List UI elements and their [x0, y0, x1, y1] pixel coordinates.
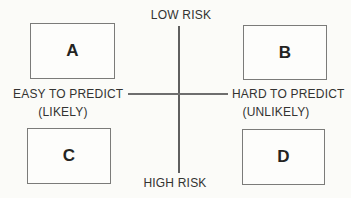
axis-label-low-risk: LOW RISK	[151, 8, 211, 22]
axis-label-easy-to-predict: EASY TO PREDICT	[13, 87, 123, 101]
quadrant-box-b: B	[243, 25, 327, 80]
quadrant-letter-b: B	[279, 43, 292, 63]
quadrant-box-d: D	[242, 129, 325, 185]
quadrant-letter-c: C	[63, 146, 76, 166]
quadrant-box-a: A	[30, 23, 115, 79]
axis-label-high-risk: HIGH RISK	[143, 176, 206, 190]
axis-sublabel-unlikely: (UNLIKELY)	[242, 105, 309, 119]
horizontal-axis-line	[128, 93, 228, 95]
quadrant-letter-d: D	[277, 147, 290, 167]
axis-label-hard-to-predict: HARD TO PREDICT	[232, 87, 345, 101]
risk-matrix-diagram: LOW RISK HIGH RISK EASY TO PREDICT (LIKE…	[0, 0, 351, 198]
quadrant-letter-a: A	[66, 41, 79, 61]
axis-sublabel-likely: (LIKELY)	[38, 105, 87, 119]
vertical-axis-line	[178, 26, 180, 173]
quadrant-box-c: C	[27, 128, 111, 184]
